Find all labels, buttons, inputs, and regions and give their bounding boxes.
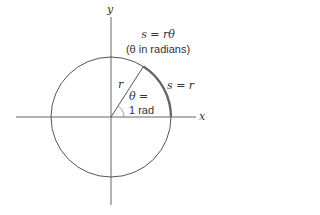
angle-label: θ = 1 rad [129, 91, 154, 116]
radius-label: r [118, 79, 123, 91]
formula-s-equals-r-theta: s = rθ [118, 29, 198, 41]
formula-note: (θ in radians) [118, 43, 198, 55]
angle-label-value: 1 rad [129, 104, 154, 116]
angle-arc [118, 106, 124, 117]
y-axis-label: y [107, 4, 113, 16]
arc-label: s = r [167, 80, 194, 92]
formula-block: s = rθ (θ in radians) [118, 29, 198, 55]
x-axis-label: x [199, 111, 205, 123]
angle-label-theta: θ = [129, 91, 154, 103]
